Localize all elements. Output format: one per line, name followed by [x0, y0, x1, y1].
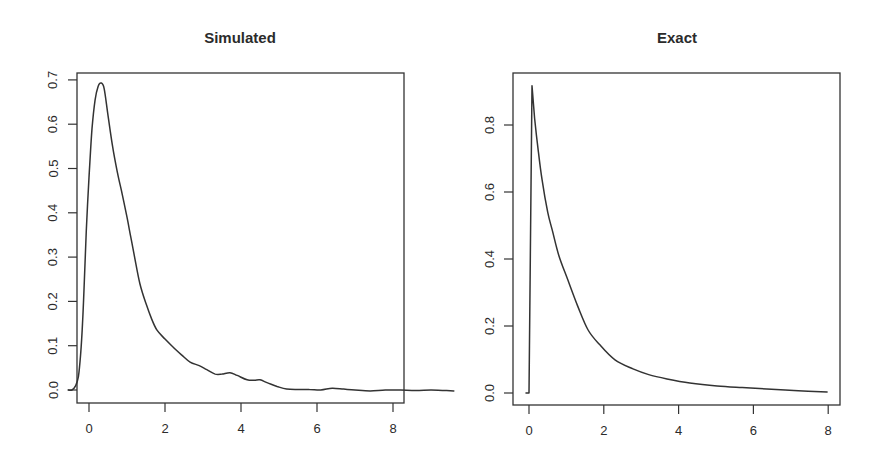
y-tick-label: 0.0 [482, 384, 497, 402]
y-tick-label: 0.8 [482, 116, 497, 134]
y-axis-simulated: 0.00.10.20.30.40.50.60.7 [46, 71, 78, 399]
y-tick-label: 0.2 [482, 317, 497, 335]
y-axis-exact: 0.00.20.40.60.8 [482, 116, 514, 402]
x-tick-label: 6 [750, 423, 757, 438]
y-tick-label: 0.6 [482, 183, 497, 201]
y-tick-label: 0.6 [46, 115, 61, 133]
x-tick-label: 2 [161, 421, 168, 436]
y-tick-label: 0.1 [46, 337, 61, 355]
x-tick-label: 0 [85, 421, 92, 436]
x-axis-exact: 02468 [525, 405, 831, 438]
x-axis-simulated: 02468 [85, 403, 396, 436]
x-tick-label: 4 [675, 423, 682, 438]
x-tick-label: 2 [600, 423, 607, 438]
chart-title-exact: Exact [657, 29, 697, 46]
plot-frame-exact [513, 73, 840, 405]
density-curve-simulated [68, 83, 454, 391]
figure: Simulated 0.00.10.20.30.40.50.60.7 02468… [0, 0, 879, 467]
x-tick-label: 4 [237, 421, 244, 436]
x-tick-label: 0 [525, 423, 532, 438]
y-tick-label: 0.5 [46, 159, 61, 177]
plot-frame-simulated [77, 73, 404, 403]
y-tick-label: 0.7 [46, 71, 61, 89]
x-tick-label: 8 [825, 423, 832, 438]
x-tick-label: 8 [389, 421, 396, 436]
y-tick-label: 0.4 [482, 250, 497, 268]
panel-simulated: Simulated 0.00.10.20.30.40.50.60.7 02468 [46, 29, 454, 436]
chart-canvas: Simulated 0.00.10.20.30.40.50.60.7 02468… [0, 0, 879, 467]
y-tick-label: 0.3 [46, 248, 61, 266]
y-tick-label: 0.4 [46, 204, 61, 222]
y-tick-label: 0.2 [46, 292, 61, 310]
panel-exact: Exact 0.00.20.40.60.8 02468 [482, 29, 841, 438]
density-curve-exact [526, 86, 827, 393]
y-tick-label: 0.0 [46, 381, 61, 399]
x-tick-label: 6 [313, 421, 320, 436]
chart-title-simulated: Simulated [204, 29, 276, 46]
